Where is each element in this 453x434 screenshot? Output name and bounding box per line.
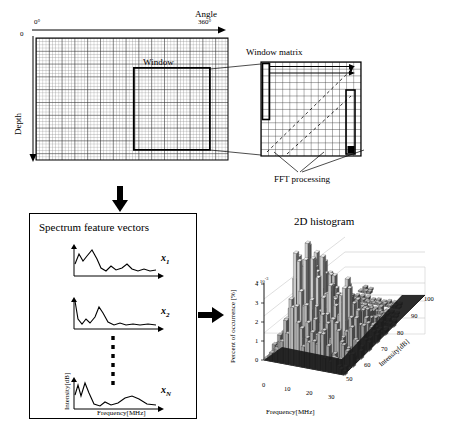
flow-arrow-right bbox=[198, 307, 224, 323]
svg-text:0: 0 bbox=[262, 381, 265, 388]
spectrum-plot-1 bbox=[70, 244, 166, 278]
histogram-3d-plot: 01 23 4 010 2030 5060 7080 90100 bbox=[242, 241, 453, 411]
vector-subscript-n: N bbox=[166, 390, 171, 398]
flow-arrow-down bbox=[112, 186, 128, 212]
histogram-zlabel: Percent of occurrence [%] bbox=[230, 290, 237, 363]
svg-text:80: 80 bbox=[397, 329, 404, 336]
svg-text:70: 70 bbox=[381, 345, 388, 352]
spectrum-ylabel: Intensity[dB] bbox=[64, 373, 71, 410]
window-label: Window bbox=[143, 58, 174, 67]
angle-axis-arrow bbox=[30, 26, 226, 36]
vector-label-1: x1 bbox=[161, 252, 170, 266]
svg-text:60: 60 bbox=[364, 361, 371, 368]
angle-start-label: 0° bbox=[34, 19, 40, 26]
vector-subscript-2: 2 bbox=[166, 311, 170, 319]
spectrum-xlabel: Frequency[MHz] bbox=[97, 410, 146, 417]
svg-text:0: 0 bbox=[255, 356, 258, 363]
svg-text:3: 3 bbox=[255, 299, 258, 306]
svg-text:4: 4 bbox=[255, 280, 259, 287]
rf-matrix-panel: Angle 0° 360° 0 Depth Window bbox=[0, 0, 453, 195]
svg-text:2: 2 bbox=[255, 318, 258, 325]
svg-text:50: 50 bbox=[346, 375, 353, 382]
depth-origin-label: 0 bbox=[20, 31, 24, 38]
svg-text:100: 100 bbox=[424, 295, 434, 302]
window-leader-lines bbox=[205, 62, 265, 158]
spectrum-panel-title: Spectrum feature vectors bbox=[39, 222, 149, 233]
spectrum-panel: Spectrum feature vectors x1 x2 xN Intens… bbox=[29, 213, 197, 419]
window-matrix-grid bbox=[261, 62, 361, 156]
vector-label-2: x2 bbox=[161, 305, 170, 319]
histogram-xlabel: Frequency[MHz] bbox=[266, 409, 315, 416]
svg-text:90: 90 bbox=[411, 312, 418, 319]
fft-processing-label: FFT processing bbox=[274, 175, 330, 184]
window-region-outline bbox=[133, 67, 211, 151]
vector-label-n: xN bbox=[161, 384, 171, 398]
angle-end-label: 360° bbox=[198, 19, 211, 26]
fft-leader-lines bbox=[272, 150, 368, 174]
svg-text:30: 30 bbox=[328, 393, 335, 400]
svg-text:10: 10 bbox=[284, 385, 291, 392]
histogram-title: 2D histogram bbox=[294, 216, 354, 227]
spectrum-plot-n bbox=[70, 377, 166, 411]
depth-axis-label: Depth bbox=[14, 113, 23, 135]
histogram-panel: 2D histogram Percent of occurrence [%] x… bbox=[224, 213, 453, 428]
vector-subscript-1: 1 bbox=[166, 258, 170, 266]
svg-text:1: 1 bbox=[255, 337, 258, 344]
svg-text:20: 20 bbox=[306, 389, 313, 396]
spectrum-plot-2 bbox=[70, 297, 166, 331]
window-matrix-label: Window matrix bbox=[246, 48, 302, 57]
